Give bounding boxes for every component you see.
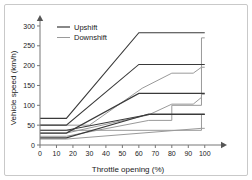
x-axis-arrow [221, 142, 227, 148]
tick-label-layer: 0501001502002503000102030405060708090100 [23, 23, 210, 157]
y-tick-label: 200 [23, 62, 35, 69]
y-axis-arrow [37, 15, 43, 21]
y-tick-label: 250 [23, 42, 35, 49]
chart-legend: UpshiftDownshift [57, 23, 108, 43]
y-tick-label: 100 [23, 102, 35, 109]
shift-map-chart: 0501001502002503000102030405060708090100… [0, 0, 252, 180]
series-line-upshift-2-3 [40, 93, 205, 133]
x-tick-label: 40 [102, 150, 110, 157]
x-tick-label: 100 [199, 150, 211, 157]
x-tick-label: 70 [151, 150, 159, 157]
series-line-upshift-launch [40, 114, 205, 130]
y-tick-label: 50 [27, 122, 35, 129]
x-tick-label: 50 [118, 150, 126, 157]
y-tick-label: 150 [23, 82, 35, 89]
series-line-downshift-2-1 [40, 114, 205, 130]
series-line-downshift-4-3 [40, 67, 205, 133]
series-line-downshift-5-4 [40, 38, 205, 125]
figure-container: 0501001502002503000102030405060708090100… [0, 0, 252, 180]
chart-plot-area: 0501001502002503000102030405060708090100… [0, 0, 252, 180]
x-tick-label: 20 [69, 150, 77, 157]
downshift-series-layer [40, 38, 205, 139]
y-tick-label: 0 [31, 142, 35, 149]
upshift-series-layer [40, 33, 205, 138]
x-tick-label: 30 [86, 150, 94, 157]
y-axis-title: Vehicle speed (km/h) [9, 50, 18, 125]
x-tick-label: 80 [168, 150, 176, 157]
x-tick-label: 60 [135, 150, 143, 157]
x-axis-title: Throttle opening (%) [92, 165, 165, 174]
x-tick-label: 10 [53, 150, 61, 157]
y-tick-label: 300 [23, 23, 35, 30]
legend-label-downshift: Downshift [74, 33, 108, 42]
x-tick-label: 90 [184, 150, 192, 157]
legend-label-upshift: Upshift [74, 23, 98, 32]
x-tick-label: 0 [38, 150, 42, 157]
